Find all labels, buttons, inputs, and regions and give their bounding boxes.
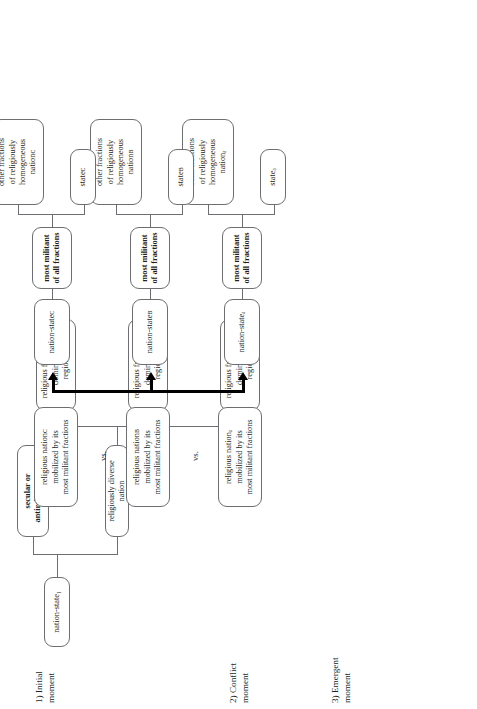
connector-a-1 (242, 289, 243, 299)
connector-diverse (117, 537, 118, 555)
connector-diverse-out (117, 427, 118, 445)
connector-a-others (208, 205, 209, 215)
box-other-fractions-b: other fractions of religiously homogeneo… (90, 119, 142, 205)
connector-b-state (182, 205, 183, 215)
row-label-initial: 1) Initial moment (34, 671, 58, 703)
box-nation-state-b: nation-stateʙ (132, 299, 168, 365)
connector-root-split (33, 554, 117, 555)
vs-label-ab: vs. (190, 451, 200, 461)
trunk-line (52, 391, 244, 394)
connector-a-state (274, 205, 275, 215)
arrow-to-c (48, 372, 58, 380)
connector-a-2 (242, 215, 243, 227)
box-state-b: stateʙ (168, 149, 194, 205)
box-nation-state-a: nation-stateₐ (224, 299, 260, 365)
diagram-inner: 1) Initial moment 2) Conflict moment 3) … (0, 0, 477, 709)
box-other-fractions-c: other fractions of religiously homogeneo… (0, 119, 44, 205)
trunk-stub-c (52, 379, 55, 393)
connector-root (57, 555, 58, 577)
connector-b-2 (150, 215, 151, 227)
connector-c-others (18, 205, 19, 215)
box-state-c: stateᴄ (70, 149, 96, 205)
box-nation-state-c: nation-stateᴄ (34, 299, 70, 365)
trunk-stub-a (242, 379, 245, 393)
box-religious-nation-b: religious nationʙ mobilized by its most … (126, 407, 170, 507)
trunk-stub-b (150, 379, 153, 393)
connector-c-2 (52, 215, 53, 227)
connector-c-state (84, 205, 85, 215)
connector-c-split (18, 214, 84, 215)
box-militant-a: most militant of all fractions (222, 227, 262, 289)
connector-a-split (208, 214, 274, 215)
box-nation-state-1: nation-state₁ (44, 577, 70, 647)
box-religious-nation-c: religious nationᴄ mobilized by its most … (34, 407, 78, 507)
diagram-canvas: 1) Initial moment 2) Conflict moment 3) … (0, 0, 477, 709)
arrow-to-a (238, 372, 248, 380)
arrow-to-b (146, 372, 156, 380)
connector-secular (33, 537, 34, 555)
connector-b-others (116, 205, 117, 215)
box-militant-b: most militant of all fractions (130, 227, 170, 289)
box-religious-nation-a: religious nationₐ mobilized by its most … (218, 407, 262, 507)
row-label-emergent: 3) Emergent moment (330, 658, 354, 704)
box-state-a: stateₐ (260, 149, 286, 205)
vs-label-bc: vs. (98, 451, 108, 461)
connector-b-1 (150, 289, 151, 299)
connector-c-1 (52, 289, 53, 299)
box-militant-c: most militant of all fractions (32, 227, 72, 289)
connector-b-split (116, 214, 182, 215)
row-label-conflict: 2) Conflict moment (228, 663, 252, 703)
